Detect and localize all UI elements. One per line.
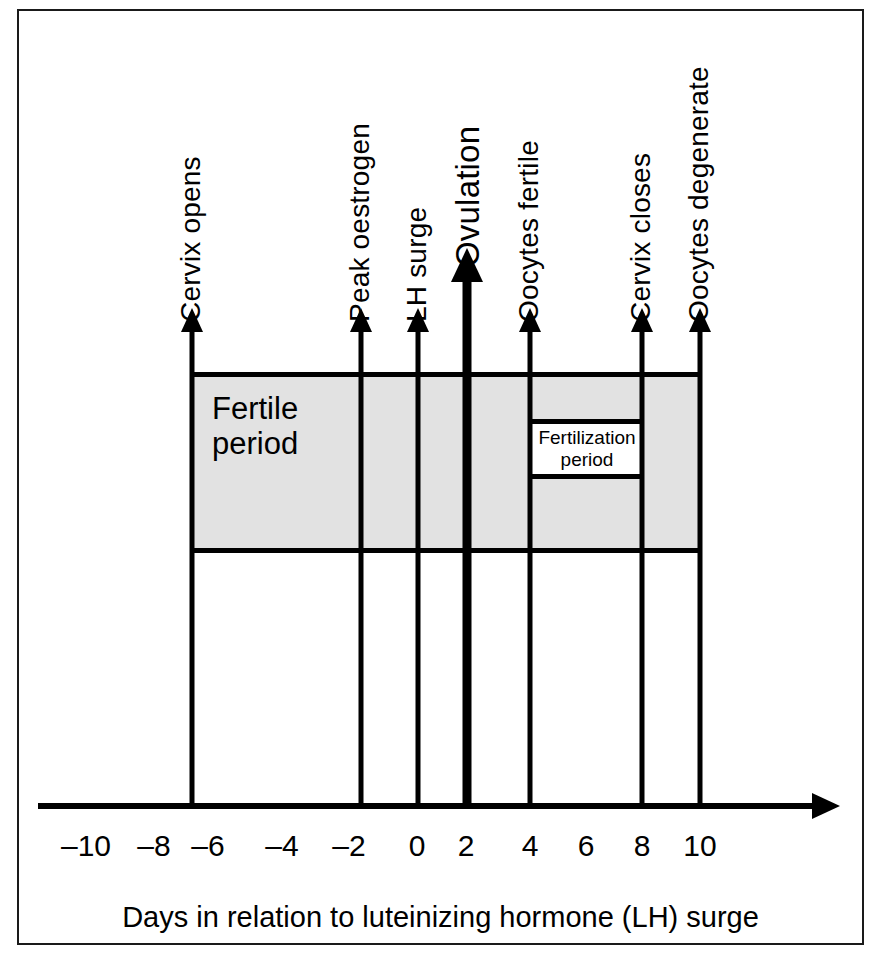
x-axis-tick-label: 8 — [634, 831, 651, 861]
x-axis-tick-label: –6 — [191, 831, 224, 861]
event-marker-label: Oocytes fertile — [515, 140, 543, 322]
figure-canvas: Fertile period Fertilization period Cerv… — [0, 0, 874, 963]
x-axis-tick-label: –10 — [61, 831, 111, 861]
fertile-period-label-line1: Fertile — [212, 392, 298, 427]
fertilization-period-label-line1: Fertilization — [538, 427, 635, 449]
fertilization-period-label-line2: period — [538, 449, 635, 471]
x-axis-tick-label: –4 — [265, 831, 298, 861]
x-axis-tick-label: 10 — [683, 831, 716, 861]
event-marker-line — [416, 330, 421, 803]
event-marker-line — [528, 330, 533, 803]
x-axis-line — [38, 803, 814, 809]
x-axis-tick-label: 0 — [409, 831, 426, 861]
event-marker-line — [463, 280, 472, 803]
x-axis-tick-label: 4 — [522, 831, 539, 861]
fertilization-period-label: Fertilization period — [538, 427, 635, 472]
event-marker-label: Cervix closes — [627, 153, 655, 322]
fertilization-period-box: Fertilization period — [531, 419, 643, 479]
axis-caption: Days in relation to luteinizing hormone … — [17, 903, 864, 932]
x-axis-arrow-icon — [812, 793, 840, 819]
event-marker-label: Cervix opens — [177, 156, 205, 322]
fertile-period-label: Fertile period — [212, 392, 298, 461]
event-marker-line — [190, 330, 195, 803]
event-marker-line — [359, 330, 364, 803]
x-axis-tick-label: –2 — [332, 831, 365, 861]
event-marker-line — [640, 330, 645, 803]
event-marker-label: Oocytes degenerate — [685, 66, 713, 322]
plot-area: Fertile period Fertilization period Cerv… — [0, 0, 874, 963]
event-marker-line — [698, 330, 703, 803]
x-axis-tick-label: 6 — [578, 831, 595, 861]
x-axis-tick-label: –8 — [137, 831, 170, 861]
event-marker-label: LH surge — [403, 207, 431, 322]
event-marker-label: Ovulation — [451, 126, 484, 267]
x-axis-tick-label: 2 — [458, 831, 475, 861]
event-marker-label: Peak oestrogen — [346, 123, 374, 322]
fertile-period-label-line2: period — [212, 427, 298, 462]
